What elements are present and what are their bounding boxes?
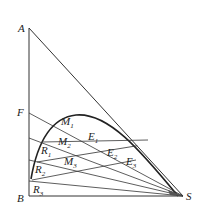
label-R2: R2 — [34, 163, 46, 178]
label-B: B — [17, 192, 24, 204]
solubility-curve — [31, 115, 178, 196]
label-M1: M1 — [60, 115, 74, 130]
label-R1: R1 — [40, 144, 51, 159]
label-E1: E1 — [87, 130, 98, 145]
side-AS — [29, 28, 183, 196]
tie-line-R3-E3 — [32, 160, 136, 180]
label-M3: M3 — [63, 155, 77, 170]
label-F: F — [16, 106, 24, 118]
ternary-diagram: A F B S M1 M2 M3 E1 E2 E3 R1 R2 R3 — [0, 0, 206, 212]
label-M2: M2 — [57, 135, 71, 150]
label-A: A — [17, 22, 25, 34]
diagram-container: A F B S M1 M2 M3 E1 E2 E3 R1 R2 R3 — [0, 0, 206, 212]
line-R1-S — [29, 138, 183, 196]
label-S: S — [186, 190, 192, 202]
label-E2: E2 — [106, 146, 118, 161]
